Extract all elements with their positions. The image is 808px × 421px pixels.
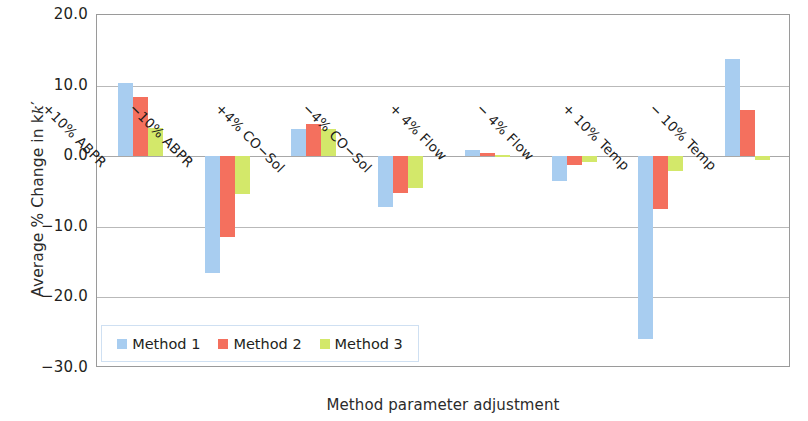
y-axis-tick-label: 20.0: [54, 5, 88, 23]
bar-group: [291, 15, 336, 366]
bar: [118, 83, 133, 156]
bar: [408, 156, 423, 188]
legend-label: Method 3: [335, 336, 403, 352]
bar: [582, 156, 597, 162]
legend-label: Method 1: [132, 336, 200, 352]
bar-group: [725, 15, 770, 366]
legend-item[interactable]: Method 3: [320, 336, 403, 352]
bar-group: [638, 15, 683, 366]
bar: [740, 110, 755, 156]
bar-group: [205, 15, 250, 366]
gridline: [97, 86, 789, 87]
bar: [495, 155, 510, 157]
bar: [393, 156, 408, 193]
bar: [205, 156, 220, 273]
y-axis-tick-label: −20.0: [41, 287, 88, 305]
bar: [755, 156, 770, 160]
bar: [465, 150, 480, 156]
bar: [480, 153, 495, 157]
bar: [638, 156, 653, 339]
legend-swatch-icon: [117, 339, 127, 349]
bar-group: [465, 15, 510, 366]
bar-group: [118, 15, 163, 366]
chart-legend: Method 1Method 2Method 3: [101, 325, 419, 362]
legend-swatch-icon: [320, 339, 330, 349]
bar: [725, 59, 740, 156]
bar-group: [552, 15, 597, 366]
bar-chart: Average % Change in kk′ 20.010.00.0−10.0…: [0, 0, 808, 421]
bar: [291, 129, 306, 156]
gridline: [97, 297, 789, 298]
y-axis-tick-label: 10.0: [54, 76, 88, 94]
legend-item[interactable]: Method 2: [218, 336, 301, 352]
bar: [235, 156, 250, 194]
legend-item[interactable]: Method 1: [117, 336, 200, 352]
x-axis-title: Method parameter adjustment: [96, 396, 790, 414]
bar: [378, 156, 393, 207]
legend-swatch-icon: [218, 339, 228, 349]
bar: [653, 156, 668, 209]
y-axis-tick-label: −30.0: [41, 358, 88, 376]
gridline: [97, 227, 789, 228]
plot-area: [96, 14, 790, 367]
y-axis-tick-labels: 20.010.00.0−10.0−20.0−30.0: [0, 0, 96, 421]
y-axis-tick-label: −10.0: [41, 217, 88, 235]
bar: [220, 156, 235, 237]
legend-label: Method 2: [233, 336, 301, 352]
bar: [668, 156, 683, 171]
bar: [567, 156, 582, 165]
bar-group: [378, 15, 423, 366]
bar: [552, 156, 567, 181]
